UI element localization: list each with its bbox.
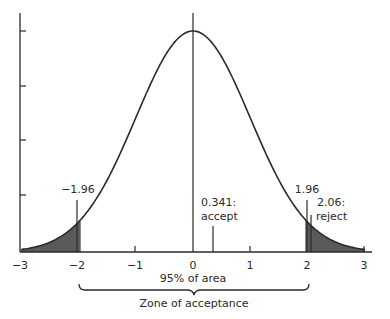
x-tick-label: −1 bbox=[127, 259, 143, 272]
x-tick-labels: −3 −2 −1 0 1 2 3 bbox=[12, 259, 368, 272]
label-minus-1-96: −1.96 bbox=[61, 183, 95, 196]
right-rejection-tail bbox=[305, 220, 365, 252]
normal-distribution-chart: −3 −2 −1 0 1 2 3 −1.96 1.96 0.341: accep… bbox=[0, 0, 390, 319]
label-1-96: 1.96 bbox=[295, 183, 320, 196]
x-tick-label: 1 bbox=[247, 259, 254, 272]
label-reject-value: 2.06: bbox=[317, 196, 345, 209]
acceptance-brace bbox=[79, 284, 309, 295]
label-accept-value: 0.341: bbox=[201, 196, 236, 209]
left-rejection-tail bbox=[21, 220, 81, 252]
x-tick-label: 3 bbox=[361, 259, 368, 272]
zone-label: Zone of acceptance bbox=[139, 297, 248, 310]
x-tick-label: 2 bbox=[304, 259, 311, 272]
label-accept-word: accept bbox=[201, 210, 239, 223]
x-tick-label: 0 bbox=[190, 259, 197, 272]
label-reject-word: reject bbox=[316, 210, 348, 223]
x-tick-label: −2 bbox=[69, 259, 85, 272]
x-tick-label: −3 bbox=[12, 259, 28, 272]
y-ticks bbox=[20, 31, 26, 195]
area-label: 95% of area bbox=[160, 272, 227, 285]
